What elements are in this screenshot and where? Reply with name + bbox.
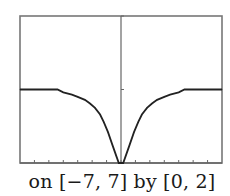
data-point bbox=[116, 157, 117, 158]
data-point bbox=[95, 107, 96, 108]
data-point bbox=[123, 163, 124, 164]
data-point bbox=[108, 132, 109, 133]
data-point bbox=[129, 144, 130, 145]
data-point bbox=[142, 114, 143, 115]
data-point bbox=[121, 163, 122, 164]
data-point bbox=[157, 99, 158, 100]
window-caption: on [−7, 7] by [0, 2] bbox=[0, 170, 230, 192]
data-point bbox=[138, 121, 139, 122]
data-point bbox=[147, 107, 148, 108]
data-point bbox=[20, 89, 21, 90]
data-point bbox=[85, 99, 86, 100]
data-point bbox=[134, 132, 135, 133]
data-point bbox=[125, 157, 126, 158]
data-point bbox=[48, 89, 49, 90]
data-point bbox=[178, 92, 179, 93]
data-point bbox=[72, 94, 73, 95]
data-point bbox=[170, 94, 171, 95]
data-point bbox=[152, 103, 153, 104]
data-point bbox=[77, 96, 78, 97]
data-point bbox=[164, 96, 165, 97]
plot-area bbox=[0, 0, 230, 170]
data-point bbox=[57, 89, 58, 90]
data-point bbox=[207, 89, 208, 90]
data-point bbox=[103, 121, 104, 122]
data-point bbox=[63, 92, 64, 93]
data-point bbox=[222, 89, 223, 90]
data-point bbox=[118, 163, 119, 164]
data-point bbox=[34, 89, 35, 90]
data-point bbox=[112, 144, 113, 145]
data-point bbox=[193, 89, 194, 90]
data-point bbox=[100, 114, 101, 115]
data-point bbox=[184, 89, 185, 90]
data-point bbox=[90, 103, 91, 104]
